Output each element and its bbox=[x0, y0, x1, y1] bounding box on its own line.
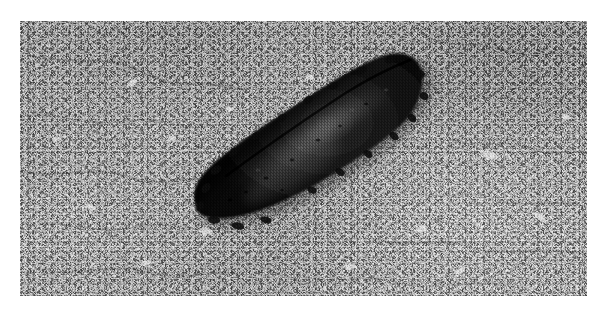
sea-cucumber bbox=[20, 21, 587, 296]
photograph bbox=[20, 21, 587, 296]
photo-page: A dark elongated sea cucumber resting on… bbox=[0, 0, 608, 317]
photo-caption: A dark elongated sea cucumber resting on… bbox=[0, 0, 1, 1]
